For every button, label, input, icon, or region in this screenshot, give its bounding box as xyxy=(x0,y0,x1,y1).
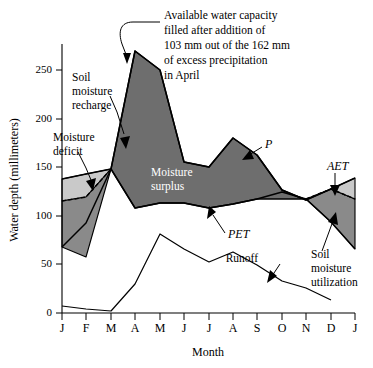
y-tick-label-150: 150 xyxy=(36,160,53,172)
label-soil-moisture-utilization: Soil moisture utilization xyxy=(311,248,358,288)
label-runoff: Runoff xyxy=(226,252,259,264)
x-tick-label-jun: J xyxy=(182,321,187,335)
x-tick-label-jul: J xyxy=(207,321,212,335)
y-axis-title: Water depth (millimeters) xyxy=(7,118,21,242)
label-p: P xyxy=(264,137,273,151)
callout-arrowhead xyxy=(123,53,131,64)
x-tick-label-sep: S xyxy=(254,321,261,335)
y-tick-label-200: 200 xyxy=(36,112,53,124)
callout-line-3: 103 mm out of the 162 mm xyxy=(164,39,290,51)
x-axis-title: Month xyxy=(192,345,224,359)
x-tick-label-aug: A xyxy=(229,321,238,335)
x-tick-label-jan: J xyxy=(60,321,65,335)
surplus-line-1: Moisture xyxy=(151,166,193,178)
x-tick-label-oct: O xyxy=(278,321,287,335)
callout-leader-available-water-capacity xyxy=(120,22,160,57)
recharge-line-1: Soil xyxy=(72,71,91,83)
pet-leader xyxy=(213,215,225,233)
deficit-line-1: Moisture xyxy=(53,131,95,143)
y-tick-label-0: 0 xyxy=(47,306,53,318)
x-tick-label-jan2: J xyxy=(353,321,358,335)
surplus-line-2: surplus xyxy=(151,180,185,193)
y-tick-label-250: 250 xyxy=(36,63,53,75)
x-ticks: J F M A M J J A S O N D J xyxy=(60,313,358,335)
region-moisture-surplus xyxy=(111,51,306,208)
x-tick-label-nov: N xyxy=(302,321,311,335)
callout-available-water-capacity: Available water capacity filled after ad… xyxy=(164,9,290,82)
y-tick-label-100: 100 xyxy=(36,209,53,221)
util-leader xyxy=(322,221,333,251)
x-tick-label-feb: F xyxy=(83,321,90,335)
series-line-runoff xyxy=(62,234,331,311)
util-line-3: utilization xyxy=(311,276,358,288)
label-soil-moisture-recharge: Soil moisture recharge xyxy=(72,71,112,112)
util-line-2: moisture xyxy=(311,262,351,274)
callout-line-2: filled after addition of xyxy=(164,24,265,36)
callout-line-4: of excess precipitation xyxy=(164,54,268,67)
callout-line-1: Available water capacity xyxy=(164,9,278,22)
label-moisture-deficit: Moisture deficit xyxy=(53,131,95,157)
label-pet: PET xyxy=(227,227,251,241)
water-balance-chart: 0 50 100 150 200 250 J F M A M J J A S O… xyxy=(0,0,373,368)
deficit-line-2: deficit xyxy=(53,145,83,157)
recharge-line-3: recharge xyxy=(72,99,111,112)
callout-line-5: in April xyxy=(164,69,199,82)
recharge-line-2: moisture xyxy=(72,85,112,97)
label-aet: AET xyxy=(326,159,350,173)
y-tick-label-50: 50 xyxy=(41,257,53,269)
chart-svg: 0 50 100 150 200 250 J F M A M J J A S O… xyxy=(0,0,373,368)
x-tick-label-dec: D xyxy=(327,321,336,335)
x-tick-label-apr: A xyxy=(131,321,140,335)
util-line-1: Soil xyxy=(311,248,330,260)
y-ticks: 0 50 100 150 200 250 xyxy=(36,63,63,318)
x-tick-label-may: M xyxy=(155,321,166,335)
x-tick-label-mar: M xyxy=(106,321,117,335)
